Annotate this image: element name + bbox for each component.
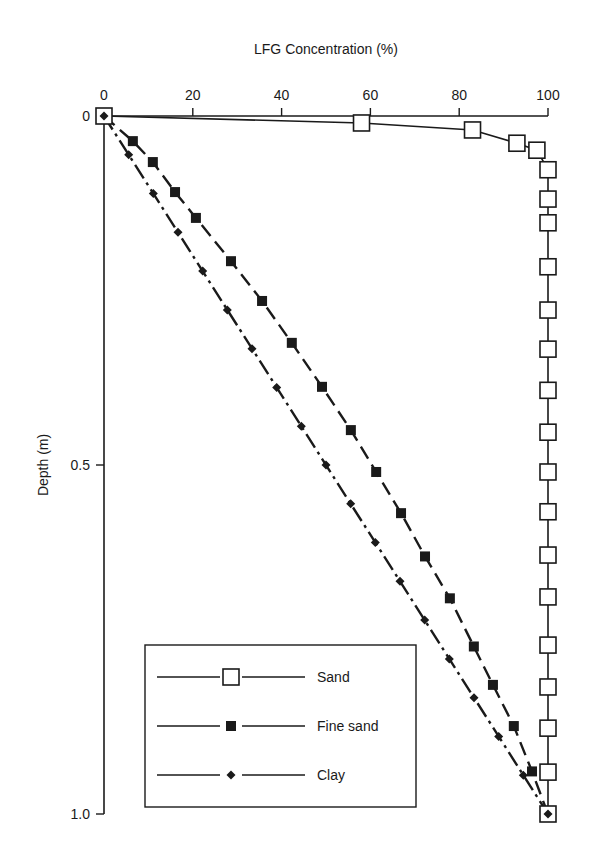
filled-square-marker: [317, 382, 327, 392]
y-axis-title: Depth (m): [35, 434, 51, 496]
open-square-marker: [540, 424, 556, 440]
filled-square-marker: [128, 136, 138, 146]
open-square-marker: [223, 669, 239, 685]
open-square-marker: [540, 191, 556, 207]
x-tick-label: 80: [451, 87, 467, 103]
open-square-marker: [540, 720, 556, 736]
filled-square-marker: [396, 508, 406, 518]
open-square-marker: [509, 135, 525, 151]
x-tick-label: 0: [100, 87, 108, 103]
y-tick-label: 0: [82, 108, 90, 124]
filled-square-marker: [488, 680, 498, 690]
filled-square-marker: [346, 425, 356, 435]
open-square-marker: [540, 637, 556, 653]
open-square-marker: [529, 142, 545, 158]
filled-square-marker: [191, 213, 201, 223]
open-square-marker: [540, 547, 556, 563]
open-square-marker: [540, 679, 556, 695]
x-tick-label: 20: [185, 87, 201, 103]
x-tick-label: 40: [274, 87, 290, 103]
open-square-marker: [540, 341, 556, 357]
depth-concentration-chart: LFG Concentration (%) Depth (m) 02040608…: [0, 0, 594, 860]
filled-square-marker: [226, 256, 236, 266]
filled-square-marker: [527, 766, 537, 776]
open-square-marker: [540, 215, 556, 231]
filled-square-marker: [170, 187, 180, 197]
filled-square-marker: [257, 296, 267, 306]
filled-diamond-marker: [346, 499, 355, 508]
open-square-marker: [540, 382, 556, 398]
filled-diamond-marker: [470, 693, 479, 702]
filled-square-marker: [287, 338, 297, 348]
x-axis-title: LFG Concentration (%): [254, 41, 398, 57]
legend: SandFine sandClay: [145, 645, 416, 807]
x-tick-label: 60: [363, 87, 379, 103]
open-square-marker: [465, 122, 481, 138]
filled-square-marker: [469, 641, 479, 651]
filled-square-marker: [509, 721, 519, 731]
open-square-marker: [540, 162, 556, 178]
open-square-marker: [540, 589, 556, 605]
open-square-marker: [540, 504, 556, 520]
filled-square-marker: [371, 467, 381, 477]
open-square-marker: [540, 764, 556, 780]
y-tick-label: 0.5: [71, 457, 91, 473]
y-tick-label: 1.0: [71, 806, 91, 822]
filled-square-marker: [445, 593, 455, 603]
open-square-marker: [540, 464, 556, 480]
filled-square-marker: [420, 551, 430, 561]
open-square-marker: [540, 302, 556, 318]
x-tick-label: 100: [536, 87, 560, 103]
open-square-marker: [540, 259, 556, 275]
open-square-marker: [354, 115, 370, 131]
filled-square-marker: [226, 721, 236, 731]
filled-square-marker: [148, 157, 158, 167]
legend-label: Sand: [317, 669, 350, 685]
legend-label: Fine sand: [317, 718, 378, 734]
filled-diamond-marker: [174, 228, 183, 237]
legend-label: Clay: [317, 767, 345, 783]
